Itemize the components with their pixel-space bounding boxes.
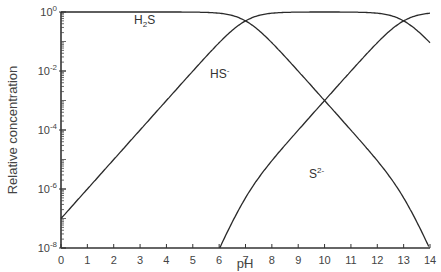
s2-curve xyxy=(220,13,430,248)
x-tick-label: 13 xyxy=(398,254,410,266)
hs-curve xyxy=(61,12,430,219)
x-axis-title: pH xyxy=(237,256,254,271)
y-axis-title: Relative concentration xyxy=(5,66,20,195)
x-tick-label: 12 xyxy=(371,254,383,266)
x-tick-label: 3 xyxy=(137,254,143,266)
x-tick-label: 14 xyxy=(424,254,436,266)
y-tick-label: 10-8 xyxy=(38,240,58,254)
series-label-s2: S2- xyxy=(309,166,324,181)
x-tick-label: 4 xyxy=(163,254,169,266)
x-tick-label: 1 xyxy=(84,254,90,266)
x-tick-label: 9 xyxy=(295,254,301,266)
series-label-hs: HS- xyxy=(210,66,230,81)
series-curves xyxy=(61,12,430,248)
x-tick-label: 5 xyxy=(190,254,196,266)
y-tick-label: 10-6 xyxy=(38,181,58,195)
series-label-h2s: H2S xyxy=(134,13,155,29)
y-tick-label: 10-2 xyxy=(38,63,58,77)
axes xyxy=(61,12,430,248)
y-tick-label: 100 xyxy=(40,4,57,18)
x-tick-label: 8 xyxy=(269,254,275,266)
x-tick-label: 0 xyxy=(58,254,64,266)
x-tick-label: 10 xyxy=(318,254,330,266)
x-tick-label: 2 xyxy=(111,254,117,266)
speciation-chart: 10010-210-410-610-8 01234567891011121314… xyxy=(0,0,441,272)
series-labels: H2SHS-S2- xyxy=(134,13,324,181)
x-tick-label: 11 xyxy=(345,254,356,266)
x-tick-label: 6 xyxy=(216,254,222,266)
y-tick-label: 10-4 xyxy=(38,122,58,136)
